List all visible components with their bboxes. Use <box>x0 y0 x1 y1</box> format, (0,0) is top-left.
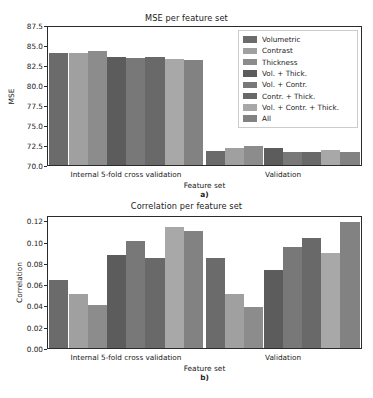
bar <box>69 294 88 348</box>
y-tick-label: 72.5 <box>9 142 43 151</box>
y-tick-label: 77.5 <box>9 102 43 111</box>
legend-swatch-icon <box>243 36 257 43</box>
figure-canvas: MSE per feature set MSE 70.072.575.077.5… <box>0 0 373 398</box>
y-tick-label: 87.5 <box>9 22 43 31</box>
bar <box>225 294 244 348</box>
legend-item-label: Contr. + Thick. <box>262 93 315 100</box>
y-tick-label: 0.10 <box>9 238 43 247</box>
legend-item-label: Volumetric <box>262 36 300 43</box>
bar <box>225 148 244 165</box>
bar <box>264 270 283 348</box>
bar <box>321 150 340 165</box>
bar <box>244 146 263 165</box>
y-tick-label: 0.12 <box>9 217 43 226</box>
chart-legend: VolumetricContrastThicknessVol. + Thick.… <box>238 30 358 128</box>
y-tick-label: 70.0 <box>9 162 43 171</box>
legend-item[interactable]: Vol. + Thick. <box>243 68 353 79</box>
legend-swatch-icon <box>243 93 257 100</box>
bar <box>184 60 203 165</box>
y-tick-mark <box>44 349 47 350</box>
bar <box>107 255 126 348</box>
legend-item-label: Vol. + Contr. <box>262 81 307 88</box>
y-tick-label: 75.0 <box>9 122 43 131</box>
plot-area-correlation <box>47 216 362 349</box>
bar <box>88 305 107 348</box>
legend-swatch-icon <box>243 104 257 111</box>
x-tick-label-validation: Validation <box>265 353 301 362</box>
legend-swatch-icon <box>243 48 257 55</box>
bar <box>283 247 302 348</box>
y-tick-label: 80.0 <box>9 82 43 91</box>
bar <box>244 307 263 348</box>
bar <box>165 227 184 348</box>
bar <box>340 152 359 165</box>
y-tick-label: 0.02 <box>9 323 43 332</box>
legend-swatch-icon <box>243 70 257 77</box>
chart-panel-correlation: Correlation per feature set Correlation … <box>0 194 373 398</box>
chart-title-correlation: Correlation per feature set <box>0 201 373 211</box>
bar <box>49 280 68 348</box>
legend-item[interactable]: Volumetric <box>243 34 353 45</box>
x-axis-label-mse: Feature set <box>47 181 362 190</box>
legend-item-label: Vol. + Contr. + Thick. <box>262 104 339 111</box>
y-axis-ticks-mse: 70.072.575.077.580.082.585.087.5 <box>0 26 43 166</box>
bar <box>184 231 203 348</box>
y-tick-label: 0.04 <box>9 302 43 311</box>
bar <box>302 238 321 348</box>
y-tick-label: 0.06 <box>9 281 43 290</box>
bar <box>206 258 225 348</box>
bar <box>107 57 126 165</box>
chart-title-mse: MSE per feature set <box>0 13 373 23</box>
x-tick-label-cv: Internal 5-fold cross validation <box>71 170 182 179</box>
legend-item-label: Contrast <box>262 47 293 54</box>
bar <box>69 53 88 165</box>
bar <box>321 253 340 348</box>
y-tick-label: 0.00 <box>9 345 43 354</box>
bar <box>165 59 184 165</box>
x-tick-label-cv: Internal 5-fold cross validation <box>71 353 182 362</box>
x-axis-label-correlation: Feature set <box>47 364 362 373</box>
panel-label-b: b) <box>47 373 362 382</box>
legend-item[interactable]: Vol. + Contr. <box>243 79 353 90</box>
y-tick-label: 82.5 <box>9 62 43 71</box>
chart-panel-mse: MSE per feature set MSE 70.072.575.077.5… <box>0 0 373 199</box>
bar <box>126 58 145 165</box>
x-tick-label-validation: Validation <box>265 170 301 179</box>
bar <box>126 241 145 348</box>
y-axis-ticks-correlation: 0.000.020.040.060.080.100.12 <box>0 216 43 349</box>
legend-item[interactable]: Contr. + Thick. <box>243 90 353 101</box>
legend-item-label: Thickness <box>262 59 298 66</box>
y-tick-label: 85.0 <box>9 42 43 51</box>
y-tick-label: 0.08 <box>9 259 43 268</box>
bar <box>264 148 283 165</box>
legend-item[interactable]: All <box>243 113 353 124</box>
bar <box>145 57 164 165</box>
legend-item[interactable]: Thickness <box>243 57 353 68</box>
legend-item-label: All <box>262 115 271 122</box>
legend-swatch-icon <box>243 82 257 89</box>
bar <box>302 152 321 165</box>
legend-swatch-icon <box>243 59 257 66</box>
legend-item[interactable]: Vol. + Contr. + Thick. <box>243 102 353 113</box>
bar <box>49 53 68 165</box>
legend-swatch-icon <box>243 115 257 122</box>
bar <box>145 258 164 348</box>
legend-item[interactable]: Contrast <box>243 45 353 56</box>
bar <box>340 222 359 348</box>
bar <box>283 152 302 165</box>
bar <box>88 51 107 165</box>
legend-item-label: Vol. + Thick. <box>262 70 307 77</box>
bar <box>206 151 225 165</box>
y-tick-mark <box>44 166 47 167</box>
